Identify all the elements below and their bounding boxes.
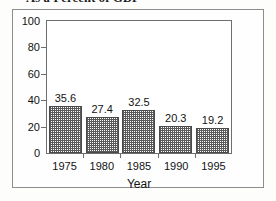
y-axis-tick-label: 40 <box>0 94 40 106</box>
bar-group: 27.4 <box>86 21 119 153</box>
y-axis-tick-label: 60 <box>0 68 40 80</box>
bar-series: 35.627.432.520.319.2 <box>47 21 231 153</box>
bar-value-label: 27.4 <box>91 103 112 115</box>
bar-group: 19.2 <box>196 21 229 153</box>
y-axis-tick-label: 20 <box>0 121 40 133</box>
x-axis-tick-mark <box>158 154 159 158</box>
bar <box>49 106 82 153</box>
y-axis-tick-mark <box>41 100 46 101</box>
bar-value-label: 32.5 <box>128 96 149 108</box>
y-axis-tick-mark <box>41 47 46 48</box>
bar-group: 20.3 <box>159 21 192 153</box>
chart-title: As a Percent of GDP <box>26 0 256 6</box>
bar <box>196 128 229 153</box>
bar-value-label: 19.2 <box>202 114 223 126</box>
y-axis-tick-mark <box>41 74 46 75</box>
x-axis-tick-mark <box>83 154 84 158</box>
y-axis-tick-label: 100 <box>0 15 40 27</box>
x-axis-title: Year <box>46 177 232 191</box>
y-axis-tick-mark <box>41 127 46 128</box>
bar-group: 35.6 <box>49 21 82 153</box>
bar-group: 32.5 <box>122 21 155 153</box>
x-axis-tick-label: 1995 <box>190 160 236 172</box>
bar <box>122 110 155 153</box>
bar-value-label: 35.6 <box>55 92 76 104</box>
y-axis-tick-label: 0 <box>0 147 40 159</box>
bar-value-label: 20.3 <box>165 112 186 124</box>
bar <box>86 117 119 153</box>
bar <box>159 126 192 153</box>
y-axis-tick-label: 80 <box>0 41 40 53</box>
x-axis-tick-mark <box>120 154 121 158</box>
chart-figure: As a Percent of GDP 35.627.432.520.319.2… <box>0 0 276 201</box>
x-axis-tick-mark <box>195 154 196 158</box>
